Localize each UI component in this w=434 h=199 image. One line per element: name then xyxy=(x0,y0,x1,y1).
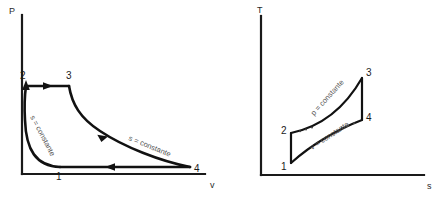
ts-diagram-panel: T s 1 2 3 4 p = constante v = constante xyxy=(217,0,434,199)
pv-state-label-2: 2 xyxy=(20,70,26,81)
ts-diagram-svg: T s 1 2 3 4 p = constante v = constante xyxy=(217,0,434,199)
pv-arrow-2-3-icon xyxy=(43,82,53,90)
ts-state-label-2: 2 xyxy=(281,125,287,136)
ts-state-label-1: 1 xyxy=(281,161,287,172)
ts-state-label-3: 3 xyxy=(366,67,372,78)
pv-state-label-1: 1 xyxy=(56,171,62,182)
pv-y-axis-label: P xyxy=(9,6,15,16)
pv-process-3-4 xyxy=(69,86,190,167)
pv-state-label-3: 3 xyxy=(66,70,72,81)
pv-diagram-panel: P v 1 2 3 4 s = constante s = constante xyxy=(0,0,217,199)
ts-y-axis-label: T xyxy=(257,5,263,15)
ts-x-axis-label: s xyxy=(427,181,432,191)
pv-arrow-4-1-icon xyxy=(105,163,115,171)
pv-diagram-svg: P v 1 2 3 4 s = constante s = constante xyxy=(0,0,217,199)
ts-state-label-4: 4 xyxy=(366,112,372,123)
pv-x-axis-label: v xyxy=(210,180,215,190)
ts-upper-curve-label: p = constante xyxy=(309,78,346,118)
pv-state-label-4: 4 xyxy=(194,163,200,174)
figure-root: P v 1 2 3 4 s = constante s = constante xyxy=(0,0,434,199)
